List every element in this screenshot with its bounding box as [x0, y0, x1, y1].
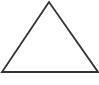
diagram-canvas — [0, 0, 99, 85]
triangle-shape — [2, 2, 98, 72]
triangle-diagram — [0, 0, 99, 85]
